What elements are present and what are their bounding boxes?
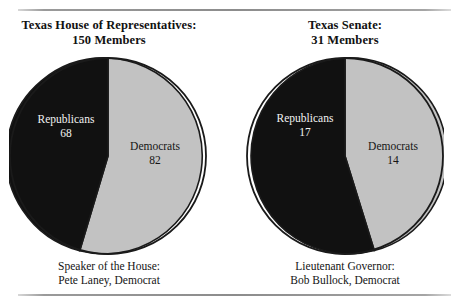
caption-texas-senate: Lieutenant Governor: Bob Bullock, Democr… [238,259,452,287]
figure-root: Texas House of Representatives: 150 Memb… [0,0,469,307]
pie-svg-house [9,57,207,255]
bottom-divider-rule [18,294,451,296]
pie-svg-senate [246,57,444,255]
caption-house-line-1: Speaker of the House: [2,259,216,273]
caption-senate-line-2: Bob Bullock, Democrat [238,273,452,287]
chart-subtitle-senate: 31 Members [238,33,452,48]
caption-texas-house: Speaker of the House: Pete Laney, Democr… [2,259,216,287]
pie-chart-texas-house: Republicans 68 Democrats 82 [9,57,207,255]
pie-chart-texas-senate: Republicans 17 Democrats 14 [246,57,444,255]
panel-texas-house-heading: Texas House of Representatives: 150 Memb… [2,18,216,48]
caption-house-line-2: Pete Laney, Democrat [2,273,216,287]
chart-title-house: Texas House of Representatives: [2,18,216,33]
top-divider-rule [18,9,451,11]
chart-title-senate: Texas Senate: [238,18,452,33]
caption-senate-line-1: Lieutenant Governor: [238,259,452,273]
panel-texas-senate-heading: Texas Senate: 31 Members [238,18,452,48]
chart-subtitle-house: 150 Members [2,33,216,48]
